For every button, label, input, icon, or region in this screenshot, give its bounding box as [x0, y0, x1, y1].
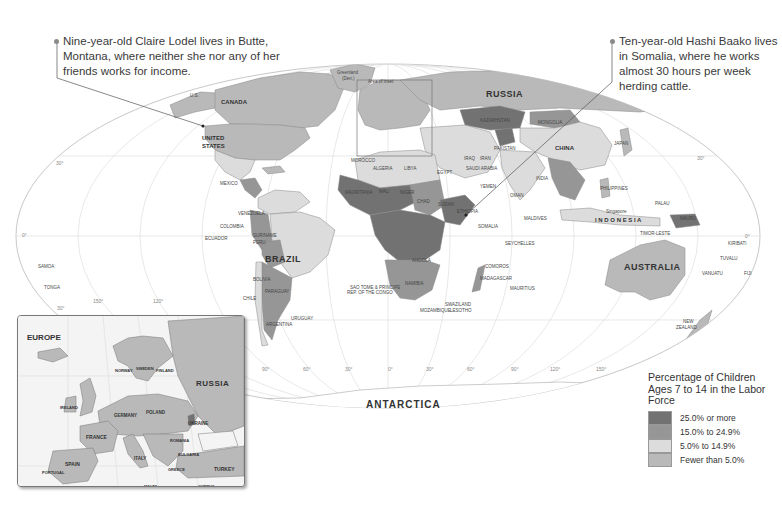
- legend-label: 5.0% to 14.9%: [680, 441, 735, 451]
- legend-label: Fewer than 5.0%: [680, 455, 744, 465]
- svg-text:Greenland: Greenland: [337, 70, 359, 75]
- svg-text:PALAU: PALAU: [655, 201, 669, 206]
- svg-text:0°: 0°: [22, 232, 27, 238]
- svg-text:30°: 30°: [697, 155, 705, 161]
- svg-text:60°: 60°: [303, 366, 311, 372]
- svg-text:0°: 0°: [745, 233, 750, 239]
- svg-text:SURINAME: SURINAME: [253, 233, 277, 238]
- svg-text:MADAGASCAR: MADAGASCAR: [480, 276, 513, 281]
- inset-label-portugal: PORTUGAL: [42, 470, 64, 475]
- inset-label-ireland: IRELAND: [60, 405, 78, 410]
- svg-text:FIJI: FIJI: [744, 271, 752, 276]
- svg-text:MOROCCO: MOROCCO: [351, 158, 375, 163]
- inset-label-bulgaria: BULGARIA: [178, 452, 199, 457]
- svg-text:CANADA: CANADA: [221, 99, 248, 105]
- svg-text:PARAGUAY: PARAGUAY: [265, 289, 289, 294]
- svg-text:OMAN: OMAN: [510, 193, 524, 198]
- legend-label: 15.0% to 24.9%: [680, 427, 740, 437]
- svg-text:TONGA: TONGA: [44, 285, 60, 290]
- callout-claire-lodel: Nine-year-old Claire Lodel lives in Butt…: [63, 34, 303, 79]
- svg-text:NEW: NEW: [683, 319, 694, 324]
- svg-text:COLOMBIA: COLOMBIA: [220, 224, 244, 229]
- inset-label-sweden: SWEDEN: [136, 366, 154, 371]
- svg-text:ECUADOR: ECUADOR: [205, 236, 228, 241]
- inset-label-ukraine: UKRAINE: [188, 421, 209, 426]
- svg-text:NAMIBIA: NAMIBIA: [405, 281, 424, 286]
- svg-text:MONGOLIA: MONGOLIA: [538, 120, 562, 125]
- svg-text:ARGENTINA: ARGENTINA: [266, 322, 292, 327]
- svg-text:CHAD: CHAD: [417, 199, 431, 204]
- legend-item: Fewer than 5.0%: [648, 453, 778, 467]
- svg-text:TUVALU: TUVALU: [720, 256, 737, 261]
- svg-text:PAKISTAN: PAKISTAN: [494, 146, 516, 151]
- svg-text:SOMALIA: SOMALIA: [478, 224, 498, 229]
- svg-text:ANGOLA: ANGOLA: [412, 258, 431, 263]
- inset-label-poland: POLAND: [146, 410, 165, 415]
- inset-label-france: FRANCE: [86, 434, 107, 440]
- svg-text:TIMOR-LESTE: TIMOR-LESTE: [640, 231, 670, 236]
- svg-text:SEYCHELLES: SEYCHELLES: [505, 241, 535, 246]
- svg-text:KAZAKHSTAN: KAZAKHSTAN: [480, 118, 510, 123]
- svg-text:NAURU: NAURU: [680, 216, 696, 221]
- svg-text:VENEZUELA: VENEZUELA: [238, 211, 265, 216]
- svg-text:120°: 120°: [550, 366, 560, 372]
- callout-text: Ten-year-old Hashi Baako lives in Somali…: [619, 35, 778, 92]
- svg-text:MEXICO: MEXICO: [220, 181, 238, 186]
- svg-text:UNITED: UNITED: [202, 135, 225, 141]
- svg-text:STATES: STATES: [202, 143, 225, 149]
- area-of-inset-label: Area of inset: [368, 79, 394, 84]
- inset-label-romania: ROMANIA: [170, 438, 189, 443]
- svg-text:Singapore: Singapore: [606, 209, 627, 214]
- legend-item: 5.0% to 14.9%: [648, 439, 778, 453]
- svg-text:RUSSIA: RUSSIA: [486, 89, 523, 99]
- legend-swatch: [648, 425, 672, 439]
- svg-text:COMOROS: COMOROS: [485, 264, 509, 269]
- inset-label-russia: RUSSIA: [196, 379, 229, 388]
- callout-dot-icon: [54, 39, 59, 44]
- svg-text:30°: 30°: [56, 160, 64, 166]
- svg-text:NIGER: NIGER: [400, 190, 415, 195]
- svg-text:MAURITANIA: MAURITANIA: [345, 190, 372, 195]
- svg-text:MALDIVES: MALDIVES: [524, 216, 547, 221]
- svg-text:URUGUAY: URUGUAY: [291, 316, 313, 321]
- svg-text:VANUATU: VANUATU: [702, 271, 723, 276]
- svg-text:ETHIOPIA: ETHIOPIA: [457, 209, 478, 214]
- svg-text:30°: 30°: [57, 305, 65, 311]
- svg-text:MALI: MALI: [379, 189, 390, 194]
- svg-text:REP. OF THE CONGO: REP. OF THE CONGO: [347, 290, 393, 295]
- svg-text:JAPAN: JAPAN: [614, 141, 628, 146]
- inset-label-turkey: TURKEY: [214, 466, 235, 472]
- svg-text:MOZAMBIQUE: MOZAMBIQUE: [420, 308, 451, 313]
- svg-text:CHILE: CHILE: [243, 296, 256, 301]
- inset-label-germany: GERMANY: [114, 413, 137, 418]
- svg-text:SAUDI ARABIA: SAUDI ARABIA: [466, 166, 497, 171]
- inset-title: EUROPE: [27, 333, 61, 342]
- svg-text:INDIA: INDIA: [536, 176, 548, 181]
- svg-text:120°: 120°: [153, 298, 163, 304]
- legend-label: 25.0% or more: [680, 413, 736, 423]
- svg-text:IRAQ: IRAQ: [464, 156, 476, 161]
- inset-label-greece: GREECE: [168, 467, 185, 472]
- legend-item: 15.0% to 24.9%: [648, 425, 778, 439]
- callout-dot-icon: [610, 39, 615, 44]
- svg-text:ANTARCTICA: ANTARCTICA: [366, 399, 441, 410]
- svg-text:60°: 60°: [467, 366, 475, 372]
- legend-item: 25.0% or more: [648, 411, 778, 425]
- butte-marker: [201, 124, 204, 127]
- legend-swatch: [648, 439, 672, 453]
- svg-text:150°: 150°: [596, 366, 606, 372]
- svg-text:BRAZIL: BRAZIL: [265, 254, 301, 264]
- legend: Percentage of Children Ages 7 to 14 in t…: [648, 372, 778, 467]
- svg-text:SUDAN: SUDAN: [438, 202, 454, 207]
- svg-text:30°: 30°: [426, 366, 434, 372]
- svg-text:0°: 0°: [388, 366, 393, 372]
- svg-text:ZEALAND: ZEALAND: [676, 325, 698, 330]
- svg-text:U.S.: U.S.: [190, 93, 199, 98]
- svg-text:PHILIPPINES: PHILIPPINES: [600, 186, 628, 191]
- inset-label-malta: MALTA: [144, 484, 157, 487]
- svg-text:90°: 90°: [511, 366, 519, 372]
- inset-label-italy: ITALY: [134, 456, 146, 461]
- svg-text:LIBYA: LIBYA: [404, 166, 416, 171]
- europe-inset: EUROPE RUSSIA FRANCE SPAIN PORTUGAL TURK…: [17, 315, 245, 487]
- svg-text:SAMOA: SAMOA: [38, 264, 54, 269]
